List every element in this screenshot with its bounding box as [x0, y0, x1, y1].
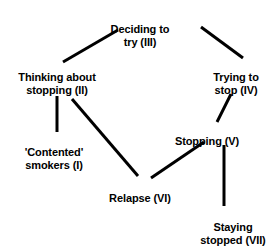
node-staying-stopped: Staying stopped (VII) — [186, 208, 280, 247]
node-deciding-to-try: Deciding to try (III) — [94, 10, 186, 49]
edge-trying-to-stopping — [217, 94, 231, 122]
node-thinking-about-stopping-label: Thinking about stopping (II) — [18, 71, 95, 96]
node-deciding-to-try-label: Deciding to try (III) — [111, 23, 170, 48]
node-stopping: Stopping (V) — [158, 122, 256, 148]
node-relapse-label: Relapse (VI) — [109, 192, 171, 204]
node-contented-smokers: 'Contented' smokers (I) — [6, 133, 102, 172]
node-trying-to-stop-label: Trying to stop (IV) — [213, 71, 259, 96]
node-stopping-label: Stopping (V) — [175, 135, 239, 147]
node-thinking-about-stopping: Thinking about stopping (II) — [2, 58, 112, 97]
node-relapse: Relapse (VI) — [92, 179, 188, 205]
cessation-cycle-diagram: 'Contented' smokers (I) Thinking about s… — [0, 0, 280, 251]
edge-deciding-to-trying — [201, 27, 243, 58]
node-contented-smokers-label: 'Contented' smokers (I) — [25, 146, 84, 171]
node-staying-stopped-label: Staying stopped (VII) — [200, 221, 265, 246]
node-trying-to-stop: Trying to stop (IV) — [194, 58, 278, 97]
